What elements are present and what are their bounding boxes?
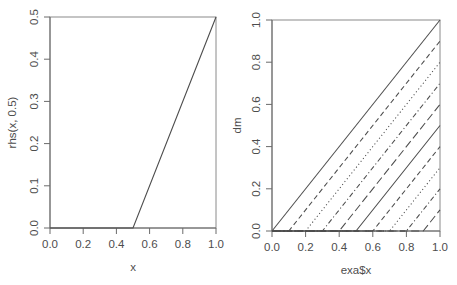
right-y-tick-label: 0.6 — [250, 96, 262, 112]
right-y-tick-label: 1.0 — [250, 12, 262, 28]
left-x-axis — [50, 228, 216, 234]
left-x-tick-label: 1.0 — [208, 238, 224, 250]
right-y-tick-label: 0.0 — [250, 223, 262, 239]
right-plot-svg: 0.0 0.2 0.4 0.6 0.8 1.0 0.0 0.2 0.4 0.6 … — [228, 0, 457, 285]
right-x-tick-label: 0.2 — [298, 241, 314, 253]
hinge-curve-4 — [272, 104, 440, 231]
left-plot-box — [50, 17, 216, 228]
right-x-tick-label: 0.6 — [365, 241, 381, 253]
right-y-axis — [266, 20, 272, 231]
left-y-tick-labels: 0.0 0.1 0.2 0.3 0.4 0.5 — [28, 9, 40, 236]
right-y-tick-label: 0.4 — [250, 138, 262, 155]
left-plot-panel: 0.0 0.1 0.2 0.3 0.4 0.5 0.0 0.2 0.4 0.6 … — [0, 0, 228, 285]
left-y-tick-label: 0.5 — [28, 9, 40, 25]
left-hinge-curve — [50, 17, 216, 228]
right-x-axis — [272, 231, 440, 237]
left-x-tick-label: 0.2 — [75, 238, 91, 250]
left-y-tick-label: 0.0 — [28, 220, 40, 236]
right-y-axis-label: dm — [231, 118, 243, 134]
left-y-axis-label: rhs(x, 0.5) — [6, 96, 18, 148]
right-y-tick-label: 0.2 — [250, 181, 262, 197]
right-y-tick-labels: 0.0 0.2 0.4 0.6 0.8 1.0 — [250, 12, 262, 239]
right-x-tick-label: 0.4 — [331, 241, 348, 253]
left-y-tick-label: 0.3 — [28, 93, 40, 109]
left-x-axis-label: x — [130, 261, 136, 273]
right-plot-panel: 0.0 0.2 0.4 0.6 0.8 1.0 0.0 0.2 0.4 0.6 … — [228, 0, 456, 285]
figure-canvas: 0.0 0.1 0.2 0.3 0.4 0.5 0.0 0.2 0.4 0.6 … — [0, 0, 457, 285]
right-x-tick-labels: 0.0 0.2 0.4 0.6 0.8 1.0 — [264, 241, 448, 253]
right-hinge-curve-group — [272, 20, 440, 231]
left-x-tick-label: 0.0 — [42, 238, 58, 250]
left-x-tick-label: 0.6 — [142, 238, 158, 250]
right-y-tick-label: 0.8 — [250, 54, 262, 70]
left-plot-svg: 0.0 0.1 0.2 0.3 0.4 0.5 0.0 0.2 0.4 0.6 … — [0, 0, 228, 285]
right-x-tick-label: 1.0 — [432, 241, 448, 253]
left-x-tick-label: 0.4 — [108, 238, 125, 250]
left-y-tick-label: 0.2 — [28, 136, 40, 152]
left-y-tick-label: 0.4 — [28, 51, 40, 68]
right-x-tick-label: 0.8 — [398, 241, 414, 253]
left-y-axis — [44, 17, 50, 228]
right-x-axis-label: exa$x — [341, 264, 372, 276]
right-x-tick-label: 0.0 — [264, 241, 280, 253]
left-x-tick-labels: 0.0 0.2 0.4 0.6 0.8 1.0 — [42, 238, 224, 250]
hinge-curve-0 — [272, 20, 440, 231]
left-x-tick-label: 0.8 — [175, 238, 191, 250]
hinge-curve-6 — [272, 147, 440, 231]
left-y-tick-label: 0.1 — [28, 178, 40, 194]
